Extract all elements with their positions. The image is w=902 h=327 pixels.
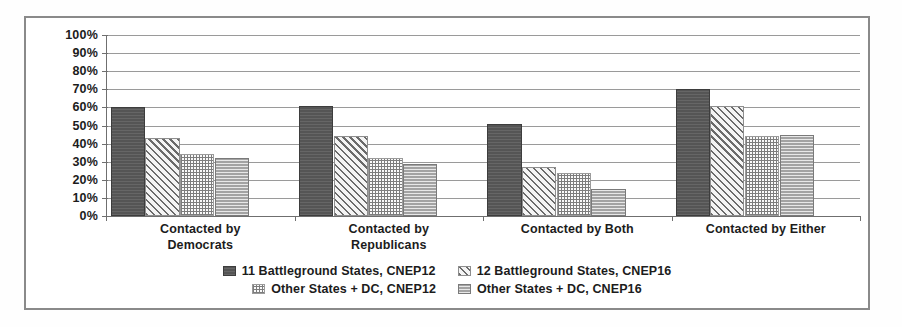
x-axis-label-line: Contacted by xyxy=(106,221,295,237)
bar xyxy=(557,173,591,216)
bar-group xyxy=(672,35,860,216)
legend-item[interactable]: 11 Battleground States, CNEP12 xyxy=(223,264,436,278)
bar-groups xyxy=(107,35,860,216)
bar xyxy=(745,136,779,216)
legend-swatch-icon xyxy=(458,266,471,276)
bar xyxy=(591,189,625,216)
x-axis-label-2: Contacted by Both xyxy=(483,221,672,237)
legend-swatch-icon xyxy=(458,284,471,294)
y-axis-labels: 100%90%80%70%60%50%40%30%20%10%0% xyxy=(34,35,102,216)
x-axis-label-line: Republicans xyxy=(295,237,484,253)
y-axis-label-100: 100% xyxy=(65,28,98,42)
legend-item[interactable]: Other States + DC, CNEP16 xyxy=(458,282,642,296)
bar xyxy=(403,164,437,216)
legend-item[interactable]: 12 Battleground States, CNEP16 xyxy=(458,264,672,278)
x-tick-origin xyxy=(106,216,107,221)
bar xyxy=(522,167,556,216)
bar xyxy=(299,106,333,216)
x-axis-label-3: Contacted by Either xyxy=(672,221,861,237)
y-axis-label-10: 10% xyxy=(72,191,98,205)
x-axis-label-line: Contacted by Both xyxy=(483,221,672,237)
bar-group xyxy=(484,35,672,216)
y-axis-label-30: 30% xyxy=(72,155,98,169)
bar xyxy=(710,106,744,216)
y-axis-label-70: 70% xyxy=(72,82,98,96)
legend-label: Other States + DC, CNEP12 xyxy=(271,282,436,296)
bar xyxy=(215,158,249,216)
legend-swatch-icon xyxy=(223,266,236,276)
y-axis-label-0: 0% xyxy=(80,209,98,223)
x-axis-label-line: Contacted by xyxy=(295,221,484,237)
x-axis-labels: Contacted byDemocratsContacted byRepubli… xyxy=(106,221,860,265)
bar xyxy=(487,124,521,216)
y-tick-0 xyxy=(102,216,108,217)
bar xyxy=(676,89,710,216)
bar-group xyxy=(295,35,483,216)
x-axis-label-line: Democrats xyxy=(106,237,295,253)
legend-row: 11 Battleground States, CNEP1212 Battleg… xyxy=(223,264,672,278)
x-axis-label-line: Contacted by Either xyxy=(672,221,861,237)
bar-group xyxy=(107,35,295,216)
bar xyxy=(145,138,179,216)
chart-frame: 100%90%80%70%60%50%40%30%20%10%0% Contac… xyxy=(24,16,870,310)
legend-label: Other States + DC, CNEP16 xyxy=(477,282,642,296)
bar xyxy=(780,135,814,216)
x-axis-label-0: Contacted byDemocrats xyxy=(106,221,295,253)
x-axis-label-1: Contacted byRepublicans xyxy=(295,221,484,253)
bar xyxy=(368,158,402,216)
legend-swatch-icon xyxy=(252,284,265,294)
bar xyxy=(180,154,214,216)
legend-label: 12 Battleground States, CNEP16 xyxy=(477,264,672,278)
y-axis-label-90: 90% xyxy=(72,46,98,60)
legend-item[interactable]: Other States + DC, CNEP12 xyxy=(252,282,436,296)
y-axis-label-60: 60% xyxy=(72,100,98,114)
plot-region xyxy=(106,35,860,216)
y-axis-label-80: 80% xyxy=(72,64,98,78)
y-axis-label-20: 20% xyxy=(72,173,98,187)
chart-legend: 11 Battleground States, CNEP1212 Battleg… xyxy=(26,264,868,296)
legend-row: Other States + DC, CNEP12Other States + … xyxy=(252,282,641,296)
y-axis-label-40: 40% xyxy=(72,137,98,151)
plot-area xyxy=(106,35,860,216)
legend-label: 11 Battleground States, CNEP12 xyxy=(242,264,436,278)
x-tick-3 xyxy=(860,216,861,221)
y-axis-label-50: 50% xyxy=(72,119,98,133)
bar xyxy=(334,136,368,216)
chart-screenshot: 100%90%80%70%60%50%40%30%20%10%0% Contac… xyxy=(0,0,902,327)
bar xyxy=(111,107,145,216)
